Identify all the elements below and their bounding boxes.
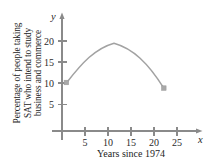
x-axis-variable-label: x [197, 134, 203, 145]
right-endpoint-marker [162, 86, 167, 91]
y-axis-arrowhead [59, 13, 64, 20]
y-axis-title-line-3: business and commerce [33, 30, 43, 116]
x-tick-label-15: 15 [126, 137, 136, 148]
y-axis-variable-label: y [50, 11, 56, 22]
x-tick-label-25: 25 [172, 137, 182, 148]
y-axis-title-line-1: Percentage of people taking [12, 23, 22, 124]
x-axis-title: Years since 1974 [56, 148, 206, 159]
x-tick-label-10: 10 [103, 137, 113, 148]
y-axis-title: Percentage of people taking SAT who inte… [7, 0, 49, 153]
parabola-curve [67, 43, 164, 88]
x-tick-label-20: 20 [149, 137, 159, 148]
x-tick-label-5: 5 [83, 137, 88, 148]
x-axis-arrowhead [196, 128, 203, 133]
y-tick-label-5: 5 [49, 99, 54, 110]
left-endpoint-marker [64, 80, 69, 85]
graph-figure: 5 10 15 20 25 20 15 10 5 y x Percentage … [0, 0, 212, 165]
y-axis-title-line-2: SAT who intend to study [23, 28, 33, 118]
